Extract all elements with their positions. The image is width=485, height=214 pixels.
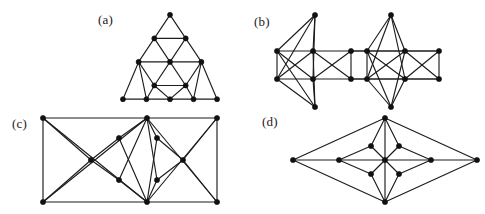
graph-edge [170,15,186,39]
graph-edge [385,118,399,146]
graph-node [88,157,93,162]
graph-edge [385,160,399,174]
graph-node [396,143,401,148]
graph-node [116,135,121,140]
graph-node [436,76,441,81]
graph-node [199,59,204,64]
graph-node [152,83,157,88]
graph-edge [399,160,431,174]
graph-node [396,171,401,176]
graph-panel-a [118,8,222,108]
node-group-a [120,12,219,101]
graph-node [382,115,387,120]
graph-panel-c [38,113,222,207]
graph-edge [293,160,385,202]
graph-node [312,104,317,109]
graph-edge [371,146,385,160]
graph-edge [371,160,385,174]
graph-edge [371,118,385,146]
graph-node [388,12,393,17]
graph-node [144,97,149,102]
node-group-c [40,115,219,204]
graph-edge [391,79,405,107]
panel-label-a: (a) [98,12,113,28]
graph-node [116,177,121,182]
graph-node [382,157,387,162]
graph-edge [367,15,391,79]
graph-node [312,12,317,17]
graph-edge [170,38,186,62]
graph-edge [154,85,170,99]
graph-node [348,48,353,53]
graph-node [388,104,393,109]
panel-label-c: (c) [12,116,27,132]
edge-group-c [43,118,217,202]
graph-node [167,59,172,64]
graph-edge [139,38,155,62]
graph-edge [277,79,315,107]
graph-edge [154,38,170,62]
graph-node [368,143,373,148]
graph-edge [385,174,399,202]
graph-edge [170,85,186,99]
graph-node [40,115,45,120]
graph-panel-d [288,113,482,207]
graph-edge [154,62,170,86]
panel-label-d: (d) [262,114,278,130]
graph-node [40,199,45,204]
graph-node [214,199,219,204]
graph-edge [385,160,477,202]
graph-node [290,157,295,162]
graph-node [214,115,219,120]
graph-edge [293,118,385,160]
edge-group-b [277,15,439,107]
graph-node [336,157,341,162]
graph-node [180,157,185,162]
graph-edge [277,15,315,51]
graph-diagram-c [38,113,222,207]
graph-node [167,97,172,102]
graph-edge [277,15,315,79]
graph-node [136,59,141,64]
graph-node [167,12,172,17]
graph-node [215,97,220,102]
graph-diagram-d [288,113,482,207]
graph-edge [170,62,186,86]
graph-edge [399,146,431,160]
graph-edge [339,146,371,160]
graph-node [274,48,279,53]
graph-node [154,135,159,140]
graph-edge [385,146,399,160]
graph-node [191,97,196,102]
graph-edge [367,79,391,107]
graph-node [364,76,369,81]
graph-diagram-b [272,10,444,112]
graph-edge [154,15,170,39]
graph-node [436,48,441,53]
graph-edge [201,62,217,99]
graph-node [428,157,433,162]
graph-diagram-a [118,8,222,108]
graph-node [274,76,279,81]
graph-node [144,115,149,120]
graph-node [120,97,125,102]
graph-node [348,76,353,81]
graph-edge [339,160,371,174]
graph-node [152,36,157,41]
graph-edge [91,160,119,180]
graph-edge [91,138,119,160]
graph-node [368,171,373,176]
graph-node [382,199,387,204]
figure-canvas: (a) (b) (c) (d) [0,0,485,214]
graph-node [154,177,159,182]
graph-node [144,199,149,204]
graph-node [402,76,407,81]
graph-node [310,48,315,53]
graph-node [402,48,407,53]
graph-node [183,36,188,41]
panel-label-b: (b) [254,14,270,30]
graph-node [364,48,369,53]
graph-node [183,83,188,88]
graph-edge [186,38,202,62]
graph-node [310,76,315,81]
